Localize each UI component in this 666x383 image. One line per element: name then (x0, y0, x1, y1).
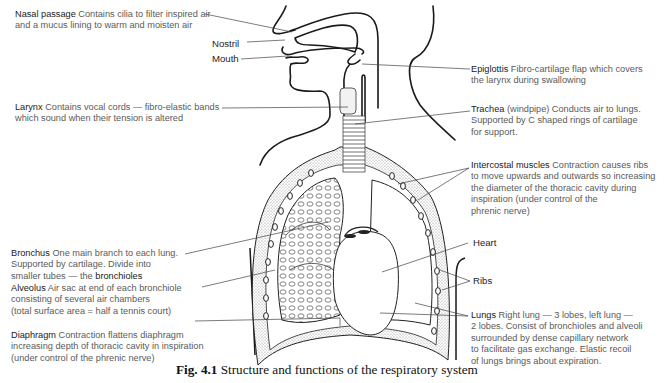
desc-line: Contains cilia to filter inspired air (78, 9, 210, 19)
term-epiglottis: Epiglottis (471, 64, 508, 74)
desc-line: smaller tubes — the (11, 271, 95, 281)
term-lungs: Lungs (471, 310, 496, 320)
desc-line: Supported by cartilage. Divide into (11, 259, 151, 269)
desc-line: (under control of the phrenic nerve) (11, 353, 155, 363)
desc-line: and a mucus lining to warm and moisten a… (15, 20, 192, 30)
term-bronchioles: bronchioles (95, 271, 142, 281)
desc-line: which sound when their tension is altere… (15, 113, 183, 123)
label-nostril: Nostril (212, 38, 239, 49)
label-bronchus: Bronchus One main branch to each lung. S… (11, 248, 178, 282)
label-ribs: Ribs (473, 275, 492, 286)
desc-line: Air sac at end of each bronchiole (48, 283, 182, 293)
desc-line: consisting of several air chambers (11, 294, 150, 304)
desc-line: inspiration (under control of the (471, 194, 598, 204)
term-alveolus: Alveolus (11, 283, 46, 293)
desc-line: Supported by C shaped rings of cartilage (471, 115, 638, 125)
figure-title: Structure and functions of the respirato… (221, 362, 478, 377)
label-lungs: Lungs Right lung — 3 lobes, left lung — … (471, 310, 643, 367)
term-trachea: Trachea (471, 104, 504, 114)
label-mouth: Mouth (212, 53, 239, 64)
desc-line: for support. (471, 127, 517, 137)
desc-line: (total surface area = half a tennis cour… (11, 306, 171, 316)
desc-line: of lungs brings about expiration. (471, 356, 601, 366)
label-intercostal-muscles: Intercostal muscles Contraction causes r… (471, 160, 655, 217)
desc-line: to move upwards and outwards so increasi… (471, 171, 655, 181)
larynx-shape (340, 88, 356, 114)
desc-line: to facilitate gas exchange. Elastic reco… (471, 344, 631, 354)
desc-line: 2 lobes. Consist of bronchioles and alve… (471, 321, 643, 331)
desc-line: the diameter of the thoracic cavity duri… (471, 183, 636, 193)
label-trachea: Trachea (windpipe) Conducts air to lungs… (471, 104, 641, 138)
label-alveolus: Alveolus Air sac at end of each bronchio… (11, 283, 182, 317)
desc-line: One main branch to each lung. (52, 248, 178, 258)
label-larynx: Larynx Contains vocal cords — fibro-elas… (15, 102, 219, 125)
term-intercostal-muscles: Intercostal muscles (471, 160, 550, 170)
desc-line: Contains vocal cords — fibro-elastic ban… (45, 102, 219, 112)
label-diaphragm: Diaphragm Contraction flattens diaphragm… (11, 330, 204, 364)
desc-line: the larynx during swallowing (471, 75, 586, 85)
desc-line: Contraction flattens diaphragm (59, 330, 184, 340)
desc-line: (windpipe) Conducts air to lungs. (507, 104, 641, 114)
desc-line: phrenic nerve) (471, 206, 530, 216)
desc-line: surrounded by dense capillary network (471, 333, 628, 343)
figure-caption: Fig. 4.1 Structure and functions of the … (176, 362, 478, 378)
desc-line: Contraction causes ribs (552, 160, 648, 170)
label-nasal-passage: Nasal passage Contains cilia to filter i… (15, 9, 211, 32)
trachea-rings (343, 116, 365, 172)
term-bronchus: Bronchus (11, 248, 50, 258)
figure-number: Fig. 4.1 (176, 362, 217, 377)
term-larynx: Larynx (15, 102, 43, 112)
desc-line: increasing depth of thoracic cavity in i… (11, 341, 204, 351)
term-diaphragm: Diaphragm (11, 330, 56, 340)
desc-line: Fibro-cartilage flap which covers (511, 64, 643, 74)
label-epiglottis: Epiglottis Fibro-cartilage flap which co… (471, 64, 643, 87)
label-heart: Heart (473, 237, 496, 248)
term-nasal-passage: Nasal passage (15, 9, 76, 19)
desc-line: Right lung — 3 lobes, left lung — (499, 310, 633, 320)
